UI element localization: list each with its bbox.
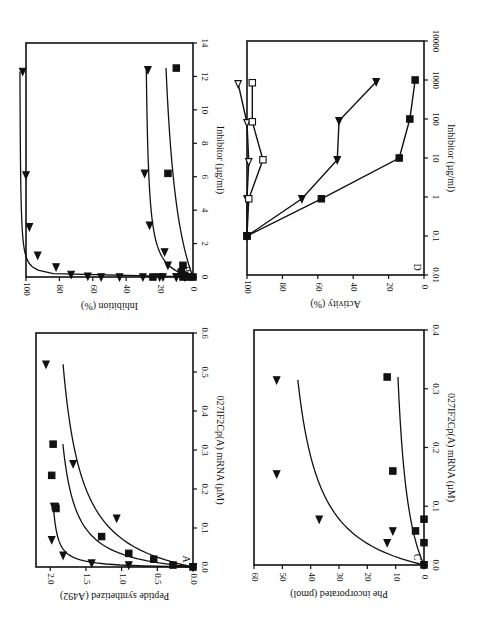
figure-rotated: 0.00.10.20.30.40.50.60.00.51.01.52.0027I… [0, 0, 481, 626]
data-point-square [412, 77, 418, 83]
y-tick-label: 0.5 [153, 573, 163, 585]
x-tick-label: 12 [200, 72, 210, 81]
y-tick-label: 60 [250, 573, 260, 583]
data-point-triangle [336, 118, 342, 125]
data-point-triangle [53, 264, 59, 271]
data-point-square [384, 374, 390, 380]
data-point-square [178, 269, 184, 275]
x-axis-label: Inhibitor (µg/ml) [445, 124, 457, 192]
data-point-triangle [43, 361, 49, 368]
x-tick-label: 14 [200, 39, 210, 49]
data-point-triangle [34, 252, 40, 259]
data-point-triangle [113, 515, 119, 522]
y-tick-label: 20 [363, 573, 373, 583]
y-tick-label: 60 [314, 283, 324, 293]
y-tick-label: 20 [385, 283, 395, 293]
data-point-triangle [273, 471, 279, 478]
x-tick-label: 0.1 [431, 501, 441, 512]
data-point-square [50, 441, 56, 447]
figure-canvas: 0.00.10.20.30.40.50.60.00.51.01.52.0027I… [0, 0, 481, 626]
y-tick-label: 80 [55, 285, 65, 295]
data-point-triangle [146, 222, 152, 229]
data-point-square [52, 503, 58, 509]
x-tick-label: 0.4 [431, 324, 441, 336]
data-point-square [396, 155, 402, 161]
y-tick-label: 40 [122, 285, 132, 295]
data-point-triangle [235, 81, 241, 88]
data-point-square [246, 196, 252, 202]
y-tick-label: 1.0 [118, 573, 128, 585]
y-tick-label: 50 [278, 573, 288, 583]
panel-D: 0.010.1110100100010000020406080100Inhibi… [235, 30, 457, 310]
data-point-triangle [165, 262, 171, 269]
x-tick-label: 8 [200, 141, 210, 146]
x-tick-label: 0 [200, 275, 210, 280]
plot-frame [26, 43, 193, 277]
x-axis-label: Inhibitor (µg/ml) [214, 126, 226, 194]
x-tick-label: 0.1 [431, 230, 441, 241]
y-tick-label: 0 [420, 575, 430, 580]
y-axis-label: Inhibition (%) [81, 300, 138, 312]
y-tick-label: 20 [156, 285, 166, 295]
y-tick-label: 0 [189, 287, 199, 292]
y-tick-label: 40 [307, 573, 317, 583]
panel-C: 0.00.10.20.30.40102030405060027IF2Cp(A) … [250, 324, 457, 599]
x-tick-label: 0.3 [200, 444, 210, 456]
data-point-square [249, 119, 255, 125]
x-tick-label: 0.01 [431, 267, 441, 283]
x-tick-label: 100 [431, 112, 441, 126]
y-tick-label: 80 [278, 283, 288, 293]
x-tick-label: 0.0 [200, 561, 210, 573]
y-tick-label: 0.0 [189, 573, 199, 585]
x-tick-label: 0.4 [200, 405, 210, 417]
data-point-square [421, 516, 427, 522]
y-tick-label: 30 [335, 573, 345, 583]
data-point-square [421, 539, 427, 545]
data-point-square [49, 472, 55, 478]
x-tick-label: 0.2 [431, 442, 441, 453]
data-point-square [260, 157, 266, 163]
x-tick-label: 1 [431, 195, 441, 200]
panel-label: A [181, 555, 192, 563]
data-point-triangle [273, 377, 279, 384]
panel-label: D [412, 263, 423, 270]
data-point-triangle [141, 170, 147, 177]
data-point-square [407, 116, 413, 122]
panel-A: 0.00.10.20.30.40.50.60.00.51.01.52.0027I… [36, 327, 226, 601]
x-axis-label: 027IF2Cp(A) mRNA (µM) [445, 393, 457, 502]
y-tick-label: 100 [22, 282, 32, 296]
data-point-triangle [26, 224, 32, 231]
data-point-square [180, 262, 186, 268]
y-tick-label: 10 [392, 573, 402, 583]
panel-B: 02468101214020406080100Inhibitor (µg/ml)… [19, 39, 225, 312]
x-tick-label: 0.6 [200, 327, 210, 339]
x-tick-label: 2 [200, 241, 210, 246]
x-tick-label: 1000 [431, 71, 441, 90]
x-tick-label: 10 [200, 105, 210, 115]
data-point-triangle [49, 537, 55, 544]
data-point-triangle [316, 516, 322, 523]
data-point-triangle [384, 539, 390, 546]
data-point-triangle [161, 249, 167, 256]
data-point-triangle [299, 196, 305, 203]
y-axis-label: Activity (%) [310, 298, 360, 310]
data-point-square [126, 550, 132, 556]
data-point-square [318, 196, 324, 202]
x-tick-label: 10000 [431, 30, 441, 53]
data-point-triangle [70, 460, 76, 467]
data-point-triangle [23, 172, 29, 179]
data-point-square [244, 233, 250, 239]
data-point-square [390, 468, 396, 474]
x-tick-label: 0.2 [200, 483, 210, 494]
y-tick-label: 1.5 [82, 573, 92, 585]
data-point-square [412, 528, 418, 534]
x-tick-label: 0.5 [200, 366, 210, 378]
data-point-triangle [390, 528, 396, 535]
data-point-triangle [88, 560, 94, 567]
y-tick-label: 100 [243, 280, 253, 294]
x-tick-label: 0.3 [431, 383, 441, 395]
y-tick-label: 40 [349, 283, 359, 293]
y-tick-label: 2.0 [46, 573, 56, 585]
y-axis-label: Peptide synthetized (A492) [60, 590, 169, 602]
data-point-square [150, 274, 156, 280]
